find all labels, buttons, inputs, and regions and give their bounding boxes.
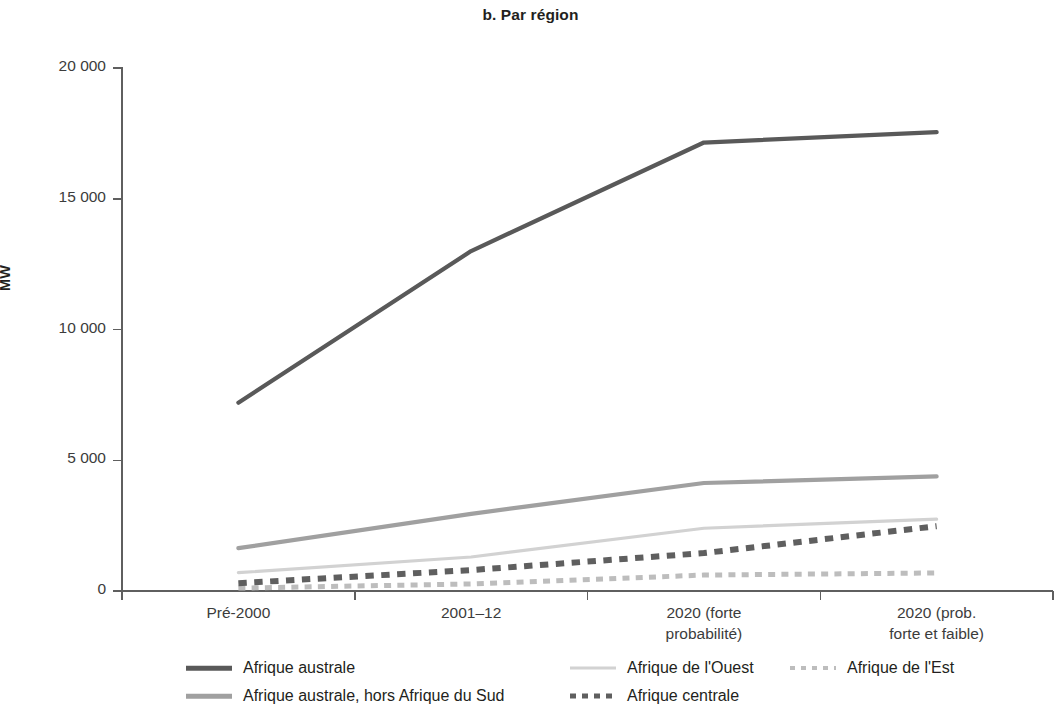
legend-item[interactable]: Afrique centrale — [570, 687, 739, 705]
legend-swatch-icon — [790, 662, 836, 674]
series-line — [238, 573, 936, 588]
legend-item[interactable]: Afrique de l'Ouest — [570, 659, 754, 677]
legend-swatch-icon — [570, 662, 616, 674]
series-line — [238, 519, 936, 573]
legend-label: Afrique de l'Est — [847, 659, 954, 677]
legend-label: Afrique australe — [243, 659, 355, 677]
chart-legend: Afrique australeAfrique australe, hors A… — [0, 657, 1061, 715]
series-plot-layer — [0, 0, 1061, 715]
legend-swatch-icon — [186, 662, 232, 674]
legend-label: Afrique australe, hors Afrique du Sud — [243, 687, 505, 705]
chart-figure: b. Par région MW 05 00010 00015 00020 00… — [0, 0, 1061, 715]
series-line — [238, 132, 936, 403]
legend-label: Afrique centrale — [627, 687, 739, 705]
legend-swatch-icon — [570, 690, 616, 702]
legend-item[interactable]: Afrique de l'Est — [790, 659, 954, 677]
legend-label: Afrique de l'Ouest — [627, 659, 754, 677]
legend-swatch-icon — [186, 690, 232, 702]
legend-item[interactable]: Afrique australe, hors Afrique du Sud — [186, 687, 505, 705]
legend-item[interactable]: Afrique australe — [186, 659, 355, 677]
